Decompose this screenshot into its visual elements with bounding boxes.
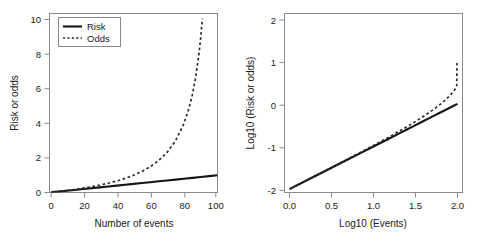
y-tick-label-4: 4 xyxy=(36,118,41,129)
x-tick-label-80: 80 xyxy=(180,200,191,211)
panel-right-svg: -2 -1 0 1 2 0.0 0.5 1.0 1.5 2.0 Log10 (E… xyxy=(240,0,481,241)
y-axis-title-left: Risk or odds xyxy=(9,75,20,131)
legend-left: Risk Odds xyxy=(59,18,121,47)
legend-label-risk: Risk xyxy=(87,21,106,32)
panel-right-log: -2 -1 0 1 2 0.0 0.5 1.0 1.5 2.0 Log10 (E… xyxy=(240,0,481,241)
x-axis-title-left: Number of events xyxy=(95,218,174,229)
x-tick-label-0: 0 xyxy=(49,200,54,211)
y-tick-label-neg2: -2 xyxy=(268,185,276,196)
y-tick-label-0: 0 xyxy=(271,100,276,111)
x-tick-label-10: 1.0 xyxy=(367,200,380,211)
x-axis-ticks-left xyxy=(51,193,216,198)
x-tick-label-00: 0.0 xyxy=(283,200,296,211)
x-axis-ticks-right xyxy=(290,193,458,198)
legend-label-odds: Odds xyxy=(87,33,110,44)
x-tick-label-40: 40 xyxy=(113,200,124,211)
series-line-odds-right xyxy=(290,61,458,189)
y-tick-label-2: 2 xyxy=(271,15,276,26)
figure-two-panel-risk-odds: 0 2 4 6 8 10 0 20 40 60 80 100 Number of… xyxy=(0,0,481,241)
plot-frame-right xyxy=(285,14,463,193)
y-tick-label-0: 0 xyxy=(36,187,41,198)
x-tick-label-05: 0.5 xyxy=(325,200,338,211)
x-tick-label-60: 60 xyxy=(146,200,157,211)
y-tick-label-neg1: -1 xyxy=(268,142,276,153)
y-axis-title-right: Log10 (Risk or odds) xyxy=(245,57,256,150)
y-axis-ticks-right xyxy=(280,20,285,190)
x-tick-label-100: 100 xyxy=(208,200,224,211)
y-tick-label-6: 6 xyxy=(36,83,41,94)
x-tick-label-20: 20 xyxy=(79,200,90,211)
y-tick-label-1: 1 xyxy=(271,57,276,68)
series-line-risk-left xyxy=(51,175,217,192)
y-axis-ticks-left xyxy=(45,20,50,193)
y-tick-label-10: 10 xyxy=(30,14,41,25)
panel-left-svg: 0 2 4 6 8 10 0 20 40 60 80 100 Number of… xyxy=(0,0,241,241)
x-tick-label-20: 2.0 xyxy=(451,200,464,211)
y-tick-label-2: 2 xyxy=(36,152,41,163)
y-tick-label-8: 8 xyxy=(36,49,41,60)
panel-left-linear: 0 2 4 6 8 10 0 20 40 60 80 100 Number of… xyxy=(0,0,241,241)
x-axis-title-right: Log10 (Events) xyxy=(339,218,407,229)
x-tick-label-15: 1.5 xyxy=(409,200,422,211)
